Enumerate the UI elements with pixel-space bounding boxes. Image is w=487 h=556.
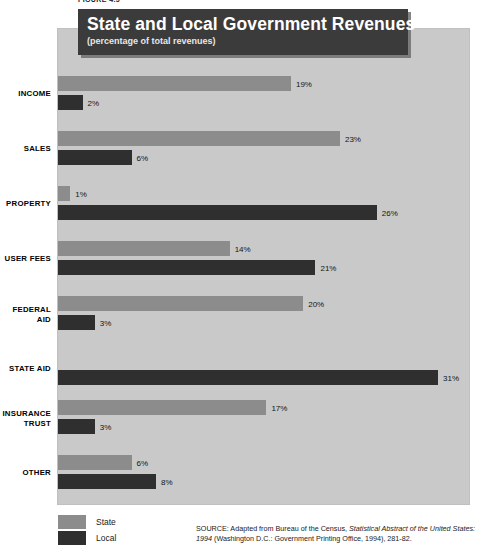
bar-group: SALES23%6% <box>0 131 487 167</box>
category-label: PROPERTY <box>0 199 51 209</box>
category-label: INCOME <box>0 89 51 99</box>
figure-number: FIGURE 4.5 <box>78 0 120 3</box>
bar-group: INSURANCETRUST17%3% <box>0 400 487 436</box>
bar-local: 6% <box>58 150 132 165</box>
local-swatch <box>58 531 86 545</box>
bar-value-local: 8% <box>161 477 173 486</box>
state-swatch <box>58 515 86 529</box>
source-prefix: SOURCE: Adapted from Bureau of the Censu… <box>196 524 349 533</box>
source-note: SOURCE: Adapted from Bureau of the Censu… <box>196 524 482 544</box>
bar-state: 20% <box>58 296 303 311</box>
bar-value-state: 23% <box>345 134 361 143</box>
chart-legend: StateLocal <box>58 515 198 547</box>
bar-value-local: 6% <box>137 153 149 162</box>
bar-state: 1% <box>58 186 70 201</box>
category-label: STATE AID <box>0 364 51 374</box>
legend-label: Local <box>96 533 116 543</box>
category-label: FEDERALAID <box>0 305 51 324</box>
bar-value-state: 17% <box>271 403 287 412</box>
category-label: USER FEES <box>0 254 51 264</box>
source-suffix: (Washington D.C.: Government Printing Of… <box>212 534 412 543</box>
bar-value-local: 26% <box>382 208 398 217</box>
bar-local: 3% <box>58 315 95 330</box>
bar-value-local: 21% <box>320 263 336 272</box>
bar-group: INCOME19%2% <box>0 76 487 112</box>
bar-value-state: 14% <box>235 244 251 253</box>
bar-value-local: 2% <box>88 98 100 107</box>
chart-title-banner: State and Local Government Revenues (per… <box>78 9 408 55</box>
bar-value-state: 6% <box>137 458 149 467</box>
legend-item: Local <box>58 531 198 545</box>
bar-group: USER FEES14%21% <box>0 241 487 277</box>
bar-local: 3% <box>58 419 95 434</box>
bar-value-state: 19% <box>296 79 312 88</box>
bar-state: 6% <box>58 455 132 470</box>
bar-state: 23% <box>58 131 340 146</box>
legend-item: State <box>58 515 198 529</box>
bar-local: 26% <box>58 205 377 220</box>
bar-local: 31% <box>58 370 438 385</box>
bar-group: STATE AID31% <box>0 351 487 387</box>
bar-value-local: 31% <box>443 373 459 382</box>
chart-subtitle: (percentage of total revenues) <box>87 35 408 48</box>
legend-label: State <box>96 517 116 527</box>
bar-value-state: 20% <box>308 299 324 308</box>
bar-value-state: 1% <box>75 189 87 198</box>
bar-local: 21% <box>58 260 315 275</box>
bar-group: PROPERTY1%26% <box>0 186 487 222</box>
bar-state: 14% <box>58 241 230 256</box>
bar-group: FEDERALAID20%3% <box>0 296 487 332</box>
bar-local: 8% <box>58 474 156 489</box>
bar-group: OTHER6%8% <box>0 455 487 491</box>
bar-local: 2% <box>58 95 83 110</box>
category-label: INSURANCETRUST <box>0 409 51 428</box>
category-label: OTHER <box>0 468 51 478</box>
chart-title: State and Local Government Revenues <box>87 13 408 35</box>
bar-value-local: 3% <box>100 318 112 327</box>
bar-state: 19% <box>58 76 291 91</box>
category-label: SALES <box>0 144 51 154</box>
bar-state: 17% <box>58 400 266 415</box>
bar-value-local: 3% <box>100 422 112 431</box>
